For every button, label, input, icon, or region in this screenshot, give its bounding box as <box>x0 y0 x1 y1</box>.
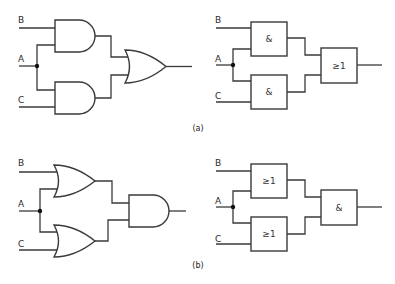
junction-dot <box>38 209 42 213</box>
and-symbol: & <box>265 87 272 97</box>
input-label-a: A <box>18 54 25 64</box>
wire-a-branch <box>233 49 251 81</box>
wire-box1-out <box>287 38 321 55</box>
wire-or2-out <box>95 220 129 241</box>
circuit-b-iec: B A C ≥1 ≥1 & <box>215 158 382 251</box>
caption-b: (b) <box>192 261 203 270</box>
circuit-a-iec: B A C & & ≥1 <box>215 15 382 109</box>
input-label-b: B <box>18 158 24 168</box>
or-symbol: ≥1 <box>262 229 275 239</box>
and-gate-1 <box>55 20 95 52</box>
wire-box2-out <box>287 75 321 92</box>
input-label-a: A <box>215 54 222 64</box>
caption-a: (a) <box>192 124 203 133</box>
and-gate-2 <box>55 82 95 114</box>
circuit-a-shapes: B A C <box>18 15 192 114</box>
wire-and2-out <box>95 75 129 98</box>
input-label-b: B <box>215 15 221 25</box>
input-label-c: C <box>18 95 24 105</box>
input-label-a: A <box>215 196 222 206</box>
wire-or1-out <box>95 181 129 203</box>
wire-a-branch <box>37 45 55 90</box>
circuit-b-shapes: B A C <box>18 158 186 257</box>
junction-dot <box>231 63 235 67</box>
and-gate <box>129 195 169 227</box>
or-symbol: ≥1 <box>262 176 275 186</box>
or-gate <box>125 50 166 83</box>
or-gate-1 <box>54 165 95 197</box>
input-label-a: A <box>18 199 25 209</box>
input-label-c: C <box>18 239 24 249</box>
and-symbol: & <box>335 203 342 213</box>
wire-a-branch <box>233 191 251 223</box>
input-label-b: B <box>215 158 221 168</box>
and-symbol: & <box>265 34 272 44</box>
logic-diagram: B A C B A C & & ≥1 (a) <box>0 0 395 284</box>
input-label-c: C <box>215 234 221 244</box>
or-symbol: ≥1 <box>332 61 345 71</box>
or-gate-2 <box>54 225 95 257</box>
input-label-b: B <box>18 15 24 25</box>
wire-box1-out <box>287 180 321 197</box>
wire-and1-out <box>95 36 129 57</box>
junction-dot <box>35 64 39 68</box>
wire-box2-out <box>287 217 321 234</box>
junction-dot <box>231 205 235 209</box>
input-label-c: C <box>215 91 221 101</box>
